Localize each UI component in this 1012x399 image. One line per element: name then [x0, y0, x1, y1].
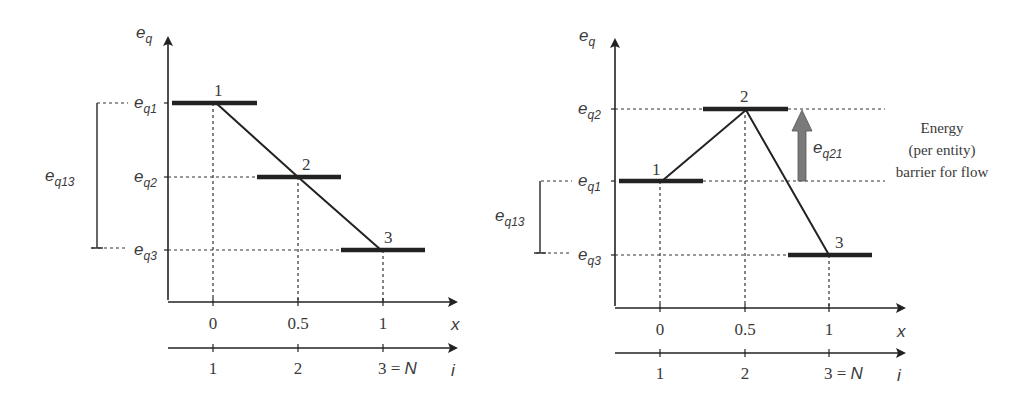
barrier-arrow-label: eq21: [813, 138, 843, 161]
right-x-tick-0: 0: [656, 320, 665, 339]
right-bracket-label: eq13: [495, 206, 525, 229]
right-diagram: eq x i eq2 eq1 eq3: [495, 26, 988, 385]
left-i-tick-3: 3 = N: [378, 359, 418, 378]
left-i-tick-1: 1: [209, 359, 218, 378]
barrier-annotation-line1: Energy: [920, 120, 964, 136]
left-level-label-eq2: eq2: [134, 167, 157, 190]
right-state-3: 3: [835, 233, 844, 252]
right-i-tick-2: 2: [741, 364, 750, 383]
right-level-label-eq2: eq2: [578, 99, 601, 122]
left-i-axis-label: i: [451, 361, 456, 380]
barrier-arrow-icon: [792, 110, 812, 181]
left-state-2: 2: [302, 155, 311, 174]
right-state-1: 1: [652, 160, 661, 179]
left-bracket-label: eq13: [45, 166, 75, 189]
left-y-axis-label: eq: [136, 23, 152, 46]
right-level-label-eq3: eq3: [578, 245, 601, 268]
barrier-annotation-line3: barrier for flow: [896, 164, 989, 180]
right-y-axis-label: eq: [579, 26, 595, 49]
energy-level-diagrams: eq x i eq1 eq2 eq3: [0, 0, 1012, 399]
right-i-tick-3: 3 = N: [824, 364, 864, 383]
right-state-2: 2: [740, 87, 749, 106]
left-x-tick-0: 0: [209, 314, 218, 333]
right-level-label-eq1: eq1: [578, 171, 601, 194]
left-level-label-eq3: eq3: [134, 240, 157, 263]
left-state-1: 1: [214, 81, 223, 100]
right-x-tick-1: 1: [825, 320, 834, 339]
left-level-label-eq1: eq1: [134, 93, 157, 116]
left-state-3: 3: [384, 228, 393, 247]
right-i-tick-1: 1: [656, 364, 665, 383]
left-x-axis-label: x: [450, 315, 460, 334]
left-diagram: eq x i eq1 eq2 eq3: [45, 23, 460, 380]
left-x-tick-0.5: 0.5: [287, 314, 308, 333]
left-i-tick-2: 2: [294, 359, 303, 378]
left-guides: [92, 103, 383, 302]
barrier-annotation-line2: (per entity): [908, 142, 975, 159]
right-x-axis-label: x: [896, 322, 906, 341]
left-x-tick-1: 1: [379, 314, 388, 333]
right-i-axis-label: i: [897, 366, 902, 385]
right-x-tick-0.5: 0.5: [734, 320, 755, 339]
